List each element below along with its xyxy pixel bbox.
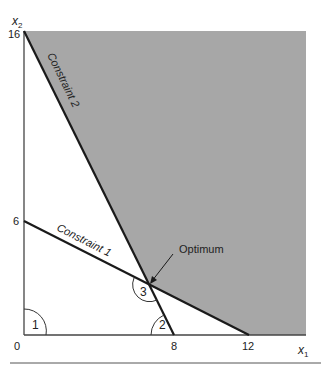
angle-label-2: 2 (159, 318, 166, 332)
x-tick-8: 8 (171, 340, 177, 352)
angle-label-1: 1 (32, 318, 39, 332)
optimum-label: Optimum (179, 243, 224, 255)
x-tick-12: 12 (242, 340, 254, 352)
constraint-1-label: Constraint 1 (55, 221, 113, 259)
x-axis-label: x1 (297, 343, 309, 359)
y-tick-6: 6 (13, 215, 19, 227)
origin-label: 0 (14, 340, 20, 352)
angle-label-3: 3 (140, 285, 147, 299)
lp-diagram: 1 2 3 Optimum Constraint 1 Constraint 2 … (0, 0, 321, 370)
y-tick-16: 16 (8, 28, 20, 40)
